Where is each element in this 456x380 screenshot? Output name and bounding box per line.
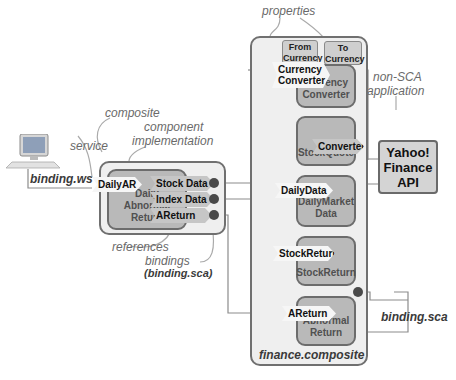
reference-stock-data[interactable]: Stock Data <box>150 176 214 191</box>
implementation-annotation: implementation <box>132 134 213 148</box>
binding-sca-label: binding.sca <box>381 310 448 324</box>
service-currency-converter[interactable]: Currency Converter <box>272 62 330 88</box>
service-areturn[interactable]: AReturn <box>282 306 336 321</box>
composite-annotation: composite <box>105 106 160 120</box>
non-sca-annotation: non-SCA <box>373 70 422 84</box>
reference-index-data[interactable]: Index Data <box>150 192 214 207</box>
properties-annotation: properties <box>262 4 315 18</box>
references-annotation: references <box>112 240 169 254</box>
stockreturn-component[interactable]: StockReturn <box>296 236 356 286</box>
bindings-annotation: bindings <box>145 254 190 268</box>
binding-dot-index-data[interactable] <box>209 194 219 204</box>
binding-dot-stock-data[interactable] <box>209 178 219 188</box>
property-to-currency[interactable]: To Currency <box>324 41 362 65</box>
computer-client-icon <box>6 134 60 170</box>
reference-areturn[interactable]: AReturn <box>150 208 212 223</box>
binding-ws-label: binding.ws <box>30 172 93 186</box>
finance-composite-label: finance.composite <box>259 348 364 362</box>
abnormal-return-component[interactable]: Abnormal Return <box>296 296 356 346</box>
property-from-currency[interactable]: From Currency <box>282 40 318 64</box>
binding-sca-dot[interactable] <box>353 287 363 297</box>
component-annotation: component <box>144 120 203 134</box>
yahoo-finance-api[interactable]: Yahoo! Finance API <box>378 140 438 194</box>
component-label: DailyMarket Data <box>298 196 354 225</box>
reference-converter[interactable]: Converter <box>312 139 364 154</box>
service-stockreturn[interactable]: StockReturn <box>273 246 335 261</box>
bindings-sca-annotation: (binding.sca) <box>144 267 212 279</box>
service-dailydata[interactable]: DailyData <box>275 183 333 198</box>
component-label: StockReturn <box>296 267 355 284</box>
service-dailyar[interactable]: DailyAR <box>92 177 142 192</box>
daily-market-data-component[interactable]: DailyMarket Data <box>296 175 356 227</box>
application-annotation: application <box>367 84 424 98</box>
binding-dot-areturn[interactable] <box>209 210 219 220</box>
service-annotation: service <box>70 139 108 153</box>
